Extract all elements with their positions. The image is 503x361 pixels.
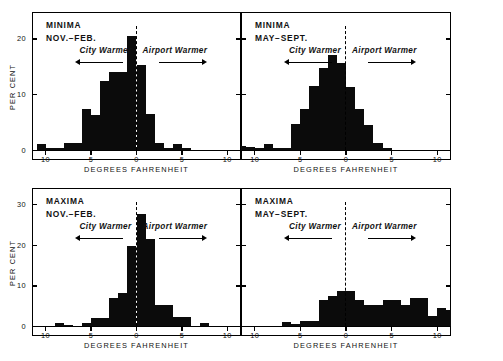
x-tick-label: 0 (344, 331, 349, 340)
x-tick-label: 10 (250, 155, 259, 164)
histogram-bar (82, 109, 91, 150)
panel-title-line1: MINIMA (46, 20, 81, 30)
histogram-bar (137, 65, 146, 150)
histogram-bar (355, 300, 364, 326)
y-tick-label: 0 (10, 146, 26, 155)
x-tick-label: 10 (41, 331, 50, 340)
x-tick-label: 5 (389, 155, 394, 164)
x-tick-label: 5 (298, 331, 303, 340)
histogram-bar (291, 124, 300, 150)
city-warmer-arrowhead-icon (75, 235, 80, 241)
x-tick-label: 10 (433, 155, 442, 164)
city-warmer-arrow-shaft (79, 238, 123, 239)
histogram-bar (437, 308, 446, 326)
histogram-bar (309, 86, 318, 150)
airport-warmer-arrow-shaft (159, 62, 203, 63)
panel-minima-nov-feb: 1050510MINIMANOV.−FEB.City WarmerAirport… (32, 12, 241, 160)
panel-title-line2: NOV.−FEB. (46, 33, 96, 43)
x-tick-label: 0 (344, 155, 349, 164)
histogram-bar (173, 317, 182, 326)
city-warmer-label: City Warmer (289, 222, 341, 231)
city-warmer-arrow-shaft (79, 62, 123, 63)
x-axis-label: DEGREES FAHRENHEIT (294, 165, 399, 174)
zero-reference-line (136, 202, 137, 326)
x-axis-label: DEGREES FAHRENHEIT (294, 341, 399, 350)
zero-reference-line (136, 26, 137, 150)
airport-warmer-arrowhead-icon (411, 59, 416, 65)
histogram-bar (392, 300, 401, 326)
histogram-bar (109, 72, 118, 150)
x-tick-label: 5 (180, 155, 185, 164)
y-tick (241, 285, 246, 286)
city-warmer-arrowhead-icon (284, 59, 289, 65)
y-axis-label: PER CENT (8, 240, 17, 286)
y-tick-label: 30 (10, 200, 26, 209)
airport-warmer-label: Airport Warmer (352, 46, 417, 55)
airport-warmer-arrow-shaft (368, 62, 412, 63)
airport-warmer-arrow-shaft (368, 238, 412, 239)
x-tick-label: 10 (223, 155, 232, 164)
x-tick-label: 5 (298, 155, 303, 164)
x-tick-label: 0 (134, 155, 139, 164)
airport-warmer-label: Airport Warmer (143, 46, 208, 55)
histogram-bar (137, 214, 146, 326)
x-tick-label: 10 (433, 331, 442, 340)
y-tick (241, 38, 246, 39)
histogram-bar (64, 143, 73, 150)
city-warmer-arrow-shaft (288, 238, 332, 239)
y-tick (32, 38, 37, 39)
y-tick (32, 204, 37, 205)
histogram-bar (73, 143, 82, 150)
y-tick (32, 94, 37, 95)
x-tick-label: 5 (89, 331, 94, 340)
city-warmer-arrowhead-icon (284, 235, 289, 241)
city-warmer-label: City Warmer (289, 46, 341, 55)
histogram-bar (155, 143, 164, 150)
y-tick (32, 245, 37, 246)
y-tick (32, 150, 37, 151)
histogram-bar (109, 298, 118, 326)
histogram-bar (428, 316, 437, 326)
y-tick (241, 245, 246, 246)
panel-title-line1: MAXIMA (255, 196, 293, 206)
histogram-bar (182, 317, 191, 326)
x-tick-label: 10 (41, 155, 50, 164)
y-tick-mirror (446, 38, 451, 39)
histogram-bar (346, 291, 355, 326)
histogram-bar (364, 305, 373, 326)
panel-maxima-may-sept: 1050510MAXIMAMAY−SEPT.City WarmerAirport… (241, 188, 451, 336)
y-axis-label: PER CENT (8, 64, 17, 110)
histogram-bar (328, 55, 337, 150)
y-tick-label: 20 (10, 34, 26, 43)
panel-title-line2: MAY−SEPT. (255, 33, 308, 43)
city-warmer-label: City Warmer (80, 46, 132, 55)
histogram-bar (346, 87, 355, 150)
histogram-bar (118, 72, 127, 150)
x-tick-label: 0 (134, 331, 139, 340)
x-tick-label: 10 (223, 331, 232, 340)
x-axis-label: DEGREES FAHRENHEIT (84, 165, 189, 174)
zero-reference-line (345, 26, 346, 150)
y-tick-mirror (446, 204, 451, 205)
airport-warmer-label: Airport Warmer (352, 222, 417, 231)
histogram-bar (355, 109, 364, 150)
y-tick (241, 94, 246, 95)
panel-title-line1: MINIMA (255, 20, 290, 30)
histogram-bar (383, 300, 392, 326)
y-tick (32, 285, 37, 286)
y-tick (241, 150, 246, 151)
histogram-bar (446, 310, 451, 326)
histogram-bar (328, 296, 337, 326)
histogram-bar (146, 239, 155, 326)
histogram-bar (146, 114, 155, 150)
city-warmer-arrowhead-icon (75, 59, 80, 65)
histogram-bar (164, 305, 173, 326)
airport-warmer-arrowhead-icon (202, 235, 207, 241)
panel-maxima-nov-feb: 1050510MAXIMANOV.−FEB.City WarmerAirport… (32, 188, 241, 336)
zero-reference-line (345, 202, 346, 326)
histogram-bar (91, 115, 100, 150)
airport-warmer-label: Airport Warmer (143, 222, 208, 231)
x-tick-label: 10 (250, 331, 259, 340)
histogram-bar (100, 318, 109, 326)
airport-warmer-arrowhead-icon (202, 59, 207, 65)
